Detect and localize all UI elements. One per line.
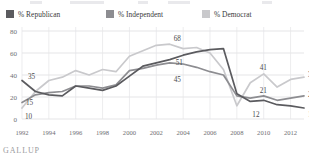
chart-legend: % Republican % Independent % Democrat	[6, 8, 306, 20]
data-label: 41	[260, 64, 268, 72]
legend-label-democrat: % Democrat	[214, 10, 252, 19]
x-axis-tick-label: 2004	[177, 129, 191, 136]
x-axis-tick-label: 2010	[257, 129, 271, 136]
line-chart-svg: 020406080 351510685145412112382110	[0, 25, 309, 125]
data-label: 21	[308, 91, 309, 99]
legend-item-republican[interactable]: % Republican	[6, 8, 60, 20]
svg-text:80: 80	[10, 28, 18, 36]
x-axis-tick-label: 2002	[150, 129, 163, 136]
data-label: 21	[260, 87, 268, 95]
legend-label-republican: % Republican	[18, 10, 60, 19]
top-cutoff-strip	[0, 0, 309, 5]
svg-text:20: 20	[10, 94, 18, 102]
legend-swatch-independent	[106, 10, 114, 18]
svg-text:0: 0	[14, 116, 18, 124]
x-axis: 1992199419961998200020022004200620082010…	[0, 126, 309, 142]
chart-figure: % Republican % Independent % Democrat 02…	[0, 0, 309, 160]
series-line-democrat	[22, 44, 304, 108]
legend-swatch-democrat	[202, 10, 210, 18]
data-label: 15	[26, 99, 34, 107]
data-label: 35	[28, 73, 36, 81]
legend-item-independent[interactable]: % Independent	[106, 8, 163, 20]
data-series-lines	[22, 44, 304, 108]
x-axis-tick-label: 2008	[230, 129, 244, 136]
vertical-gridlines	[22, 27, 291, 119]
y-axis-tick-labels: 020406080	[10, 28, 18, 124]
data-label: 12	[252, 111, 260, 119]
data-label: 51	[176, 59, 184, 67]
svg-text:40: 40	[10, 72, 18, 80]
x-axis-tick-label: 1994	[42, 129, 56, 136]
data-label: 10	[25, 113, 33, 121]
data-label: 68	[174, 35, 182, 43]
legend-swatch-republican	[6, 10, 14, 18]
data-point-labels: 351510685145412112382110	[25, 35, 309, 121]
legend-label-independent: % Independent	[118, 10, 163, 19]
series-line-republican	[22, 49, 304, 108]
x-axis-tick-label: 2006	[203, 129, 217, 136]
x-axis-tick-label: 2012	[284, 129, 297, 136]
x-axis-svg: 1992199419961998200020022004200620082010…	[0, 126, 309, 142]
source-attribution: GALLUP	[3, 146, 40, 155]
x-axis-tick-label: 2000	[123, 129, 137, 136]
x-axis-tick-label: 1992	[15, 129, 28, 136]
plot-area: 020406080 351510685145412112382110	[0, 25, 309, 125]
data-label: 38	[308, 71, 309, 79]
x-axis-tick-label: 1998	[96, 129, 110, 136]
svg-text:60: 60	[10, 50, 18, 58]
data-label: 45	[174, 76, 182, 84]
data-label: 10	[308, 111, 309, 119]
legend-item-democrat[interactable]: % Democrat	[202, 8, 252, 20]
x-axis-tick-label: 1996	[69, 129, 83, 136]
